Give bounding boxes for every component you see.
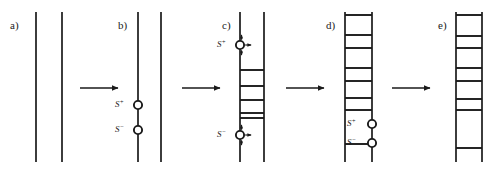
panel-letter-b: b): [118, 19, 128, 32]
site-circle-d-0: [368, 120, 376, 128]
panel-letter-e: e): [438, 19, 447, 32]
site-circle-b-1: [134, 126, 142, 134]
panel-letter-d: d): [326, 19, 336, 32]
figure-canvas: a)b)S+S−c)S+S−d)S+S−e): [0, 0, 495, 169]
panel-letter-c: c): [222, 19, 231, 32]
panel-letter-a: a): [10, 19, 19, 32]
site-circle-d-1: [368, 139, 376, 147]
background: [0, 0, 495, 169]
reaction-sequence-diagram: a)b)S+S−c)S+S−d)S+S−e): [0, 0, 495, 169]
site-circle-c-0: [236, 41, 244, 49]
site-circle-b-0: [134, 101, 142, 109]
site-circle-c-1: [236, 131, 244, 139]
